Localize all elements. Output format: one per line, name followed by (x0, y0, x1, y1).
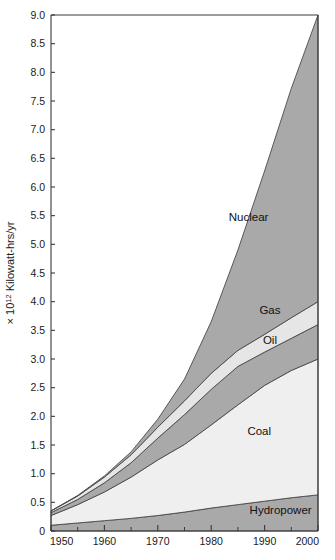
y-tick-label: 0 (39, 525, 45, 537)
y-tick-label: 8.0 (30, 66, 45, 78)
y-tick-label: 3.0 (30, 353, 45, 365)
x-tick-label: 1970 (146, 535, 170, 547)
y-axis-title: × 1012 Kilowatt-hrs/yr (4, 221, 17, 324)
y-tick-label: 3.5 (30, 324, 45, 336)
y-tick-label: 1.5 (30, 439, 45, 451)
x-tick-label: 1950 (50, 535, 74, 547)
band-label-coal: Coal (247, 425, 271, 437)
x-tick-label: 1990 (253, 535, 277, 547)
y-tick-label: 9.0 (30, 9, 45, 21)
band-label-oil: Oil (263, 334, 277, 346)
y-tick-label: 8.5 (30, 37, 45, 49)
x-tick-label: 2000 (296, 535, 320, 547)
y-axis-title-prefix: × 10 (4, 303, 16, 325)
band-label-nuclear: Nuclear (229, 211, 269, 223)
stacked-area-chart: 00.51.01.52.02.53.03.54.04.55.05.56.06.5… (0, 0, 335, 560)
y-tick-label: 6.5 (30, 152, 45, 164)
band-label-hydropower: Hydropower (250, 504, 312, 516)
y-tick-label: 1.0 (30, 467, 45, 479)
y-axis-title-suffix: Kilowatt-hrs/yr (4, 221, 16, 294)
x-tick-label: 1980 (200, 535, 224, 547)
y-tick-label: 4.0 (30, 295, 45, 307)
y-tick-label: 2.0 (30, 410, 45, 422)
band-label-gas: Gas (259, 304, 280, 316)
y-tick-label: 0.5 (30, 496, 45, 508)
y-tick-label: 7.5 (30, 95, 45, 107)
y-tick-label: 4.5 (30, 267, 45, 279)
y-tick-label: 6.0 (30, 181, 45, 193)
y-tick-label: 5.0 (30, 238, 45, 250)
x-tick-label: 1960 (93, 535, 117, 547)
y-tick-label: 5.5 (30, 209, 45, 221)
y-tick-label: 2.5 (30, 381, 45, 393)
y-tick-label: 7.0 (30, 123, 45, 135)
y-axis-title-exponent: 12 (4, 294, 13, 302)
